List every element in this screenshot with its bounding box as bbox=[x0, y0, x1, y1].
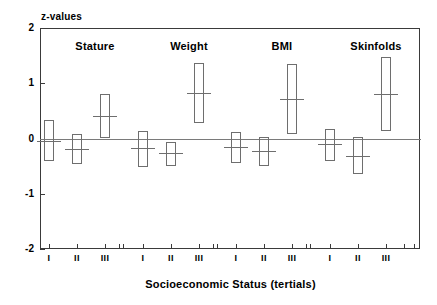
x-tick-mark bbox=[143, 244, 144, 249]
y-tick-mark bbox=[40, 28, 45, 29]
x-tick-mark bbox=[330, 244, 331, 249]
x-tick-mark-minor bbox=[306, 244, 307, 249]
x-tick-label: III bbox=[371, 253, 401, 263]
mean-marker bbox=[224, 147, 248, 148]
x-tick-label: III bbox=[277, 253, 307, 263]
range-box bbox=[325, 129, 335, 161]
x-tick-mark bbox=[199, 244, 200, 249]
x-tick-mark bbox=[292, 244, 293, 249]
x-tick-mark bbox=[358, 244, 359, 249]
y-tick-label: 0 bbox=[6, 133, 34, 144]
x-tick-mark bbox=[77, 244, 78, 249]
x-tick-label: II bbox=[343, 253, 373, 263]
mean-marker bbox=[187, 93, 211, 94]
x-tick-label: I bbox=[221, 253, 251, 263]
y-tick-label: 1 bbox=[6, 77, 34, 88]
x-tick-mark-minor bbox=[119, 244, 120, 249]
chart-figure: z-values 210-1-2 IIIIIIIIIIIIIIIIIIIIIII… bbox=[0, 0, 437, 305]
x-tick-mark bbox=[386, 244, 387, 249]
x-axis-title: Socioeconomic Status (tertials) bbox=[12, 278, 437, 290]
x-tick-label: II bbox=[249, 253, 279, 263]
group-label-skinfolds: Skinfolds bbox=[316, 40, 436, 52]
mean-marker bbox=[93, 116, 117, 117]
x-tick-label: I bbox=[315, 253, 345, 263]
mean-marker bbox=[131, 148, 155, 149]
mean-marker bbox=[374, 94, 398, 95]
mean-marker bbox=[280, 99, 304, 100]
x-tick-mark bbox=[171, 244, 172, 249]
x-tick-mark-minor bbox=[217, 244, 218, 249]
x-tick-mark-minor bbox=[213, 244, 214, 249]
y-tick-mark bbox=[40, 249, 45, 250]
x-tick-label: III bbox=[184, 253, 214, 263]
y-tick-label: -2 bbox=[6, 243, 34, 254]
x-tick-mark-minor bbox=[310, 244, 311, 249]
y-axis-title: z-values bbox=[41, 11, 82, 22]
x-tick-label: III bbox=[90, 253, 120, 263]
y-tick-mark bbox=[40, 83, 45, 84]
x-tick-label: II bbox=[62, 253, 92, 263]
x-tick-mark bbox=[105, 244, 106, 249]
mean-marker bbox=[65, 149, 89, 150]
mean-marker bbox=[252, 151, 276, 152]
y-tick-label: -1 bbox=[6, 188, 34, 199]
mean-marker bbox=[318, 144, 342, 145]
mean-marker bbox=[159, 153, 183, 154]
range-box bbox=[166, 142, 176, 166]
x-tick-mark bbox=[236, 244, 237, 249]
x-tick-label: I bbox=[34, 253, 64, 263]
x-tick-mark-minor bbox=[123, 244, 124, 249]
x-tick-mark bbox=[264, 244, 265, 249]
range-box bbox=[138, 131, 148, 167]
x-tick-mark bbox=[49, 244, 50, 249]
y-tick-label: 2 bbox=[6, 22, 34, 33]
mean-marker bbox=[37, 141, 61, 142]
x-tick-label: II bbox=[156, 253, 186, 263]
x-tick-label: I bbox=[128, 253, 158, 263]
mean-marker bbox=[346, 156, 370, 157]
y-tick-mark bbox=[40, 194, 45, 195]
x-tick-mark-minor bbox=[404, 244, 405, 249]
x-tick-mark-minor bbox=[414, 244, 415, 249]
